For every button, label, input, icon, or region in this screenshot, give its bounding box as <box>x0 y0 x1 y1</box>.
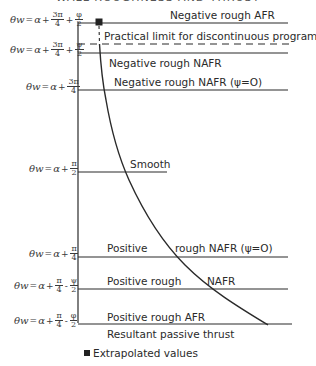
formula-positive-rough-nafr-psi0: θw=α+ π4 <box>29 245 79 262</box>
formula-negative-rough-nafr-psi0: θw=α+ 3π4 <box>26 78 81 95</box>
extrapolated-value-marker <box>96 19 103 26</box>
label-negative-rough-nafr: Negative rough NAFR <box>109 57 222 69</box>
label-positive-rough-right: NAFR <box>207 275 235 287</box>
legend-label: Extrapolated values <box>93 347 198 359</box>
formula-positive-rough-afr: θw=α+ π4 - φ2 <box>14 312 78 329</box>
formula-positive-rough-nafr: θw=α+ π4 - ψ2 <box>14 277 79 294</box>
label-practical-limit: Practical limit for discontinuous progra… <box>104 30 316 42</box>
curve-extrapolated-segment <box>99 26 100 44</box>
legend: Extrapolated values <box>84 347 198 359</box>
filled-square-icon <box>84 350 90 356</box>
label-positive-rough-afr: Positive rough AFR <box>107 311 205 323</box>
label-negative-rough-nafr-psi0: Negative rough NAFR (ψ=O) <box>114 76 262 88</box>
formula-smooth: θw=α+ π2 <box>29 160 79 177</box>
label-negative-rough-afr: Negative rough AFR <box>170 9 275 21</box>
formula-negative-rough-afr: θw=α+ 3π4 + φ2 <box>10 11 84 28</box>
label-smooth: Smooth <box>130 158 171 170</box>
x-axis-label: Resultant passive thrust <box>107 328 234 340</box>
label-positive-rough-left: Positive rough <box>107 275 181 287</box>
label-positive-psi0-left: Positive <box>107 242 147 254</box>
formula-negative-rough-nafr: θw=α+ 3π4 + ψ2 <box>10 41 85 58</box>
label-positive-psi0-right: rough NAFR (ψ=O) <box>175 242 273 254</box>
